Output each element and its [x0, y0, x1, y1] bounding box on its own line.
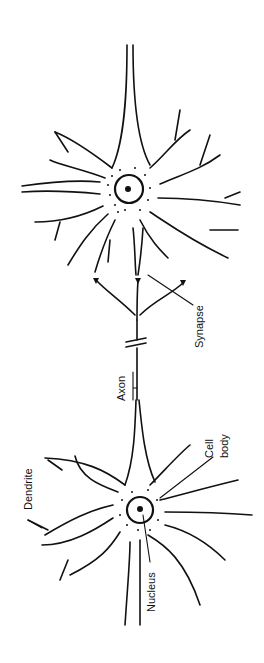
top-neuron: [22, 45, 240, 275]
neuron-diagram: Dendrite Nucleus Cell body Axon Synapse: [0, 0, 264, 663]
label-body: body: [218, 434, 230, 458]
label-dendrite: Dendrite: [22, 468, 34, 510]
synapse-terminals: [93, 275, 193, 347]
label-axon: Axon: [115, 376, 127, 401]
bottom-neuron: [28, 445, 252, 625]
label-synapse: Synapse: [193, 305, 205, 348]
label-nucleus: Nucleus: [145, 572, 157, 612]
label-cell: Cell: [203, 439, 215, 458]
